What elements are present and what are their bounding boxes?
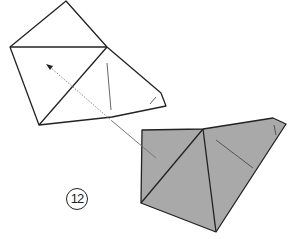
fold-diagram <box>0 0 294 239</box>
before-shape <box>10 1 166 125</box>
step-number-badge: 12 <box>66 188 88 210</box>
after-shape <box>141 118 286 232</box>
before-outline <box>10 1 166 125</box>
